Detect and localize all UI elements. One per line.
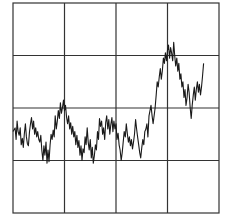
line-chart [0, 0, 230, 222]
chart-background [0, 0, 230, 222]
